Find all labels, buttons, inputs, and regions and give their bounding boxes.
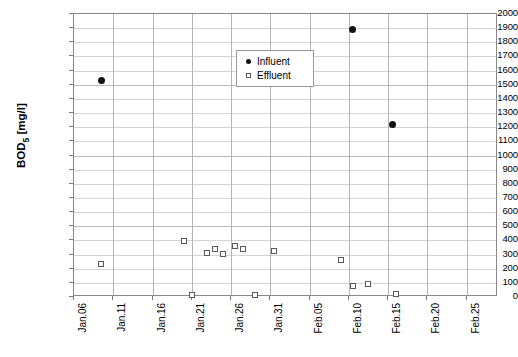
- legend-label-influent: Influent: [257, 56, 290, 67]
- x-axis-tick-mark: [466, 296, 467, 300]
- gridline-vertical: [427, 14, 428, 295]
- gridline-horizontal: [74, 156, 496, 157]
- gridline-vertical: [349, 14, 350, 295]
- gridline-horizontal: [74, 269, 496, 270]
- gridline-horizontal: [74, 141, 496, 142]
- gridline-vertical: [113, 14, 114, 295]
- x-axis-tick-mark: [230, 296, 231, 300]
- gridline-horizontal: [74, 240, 496, 241]
- gridline-horizontal: [74, 170, 496, 171]
- data-point-effluent: [240, 246, 246, 252]
- gridline-horizontal: [74, 255, 496, 256]
- open-square-icon: [242, 73, 254, 78]
- data-point-effluent: [212, 246, 218, 252]
- gridline-horizontal: [74, 184, 496, 185]
- data-point-effluent: [350, 283, 356, 289]
- x-axis-tick-label: Feb.25: [470, 303, 481, 334]
- x-axis-tick-label: Jan.16: [156, 303, 167, 332]
- gridline-horizontal: [74, 113, 496, 114]
- bod5-scatter-chart: BOD5 [mg/l] 2000190018001700160015001400…: [0, 0, 518, 357]
- data-point-effluent: [98, 261, 104, 267]
- gridline-horizontal: [74, 198, 496, 199]
- chart-legend: Influent Effluent: [236, 50, 314, 87]
- x-axis-tick-mark: [348, 296, 349, 300]
- x-axis-tick-label: Jan.11: [116, 303, 127, 332]
- gridline-horizontal: [74, 99, 496, 100]
- gridline-vertical: [388, 14, 389, 295]
- x-axis-tick-label: Jan.31: [273, 303, 284, 332]
- x-axis-tick-label: Jan.06: [77, 303, 88, 332]
- x-axis-tick-label: Jan.21: [195, 303, 206, 332]
- x-axis-tick-label: Feb.05: [313, 303, 324, 334]
- x-axis-tick-label: Feb.20: [430, 303, 441, 334]
- data-point-effluent: [220, 251, 226, 257]
- gridline-horizontal: [74, 127, 496, 128]
- y-axis-title: BOD5 [mg/l]: [15, 61, 30, 211]
- gridline-horizontal: [74, 42, 496, 43]
- legend-item-influent: Influent: [242, 54, 308, 68]
- x-axis-tick-mark: [309, 296, 310, 300]
- data-point-influent: [98, 77, 105, 84]
- x-axis-tick-mark: [73, 296, 74, 300]
- gridline-vertical: [231, 14, 232, 295]
- gridline-vertical: [192, 14, 193, 295]
- x-axis-tick-mark: [152, 296, 153, 300]
- gridline-vertical: [153, 14, 154, 295]
- data-point-effluent: [204, 250, 210, 256]
- y-axis-title-subscript: 5: [21, 138, 31, 143]
- y-axis-title-base: BOD: [15, 142, 27, 168]
- x-axis-tick-mark: [387, 296, 388, 300]
- legend-label-effluent: Effluent: [257, 70, 291, 81]
- gridline-horizontal: [74, 226, 496, 227]
- gridline-horizontal: [74, 212, 496, 213]
- x-axis-tick-label: Feb.10: [352, 303, 363, 334]
- data-point-effluent: [393, 291, 399, 297]
- gridline-horizontal: [74, 28, 496, 29]
- x-axis-tick-mark: [112, 296, 113, 300]
- data-point-effluent: [365, 281, 371, 287]
- data-point-effluent: [181, 238, 187, 244]
- data-point-influent: [389, 121, 396, 128]
- data-point-effluent: [252, 292, 258, 298]
- data-point-influent: [349, 26, 356, 33]
- y-axis-title-unit: [mg/l]: [15, 103, 27, 138]
- data-point-effluent: [232, 243, 238, 249]
- x-axis-tick-label: Feb.15: [391, 303, 402, 334]
- x-axis-tick-mark: [426, 296, 427, 300]
- gridline-vertical: [467, 14, 468, 295]
- legend-item-effluent: Effluent: [242, 68, 308, 82]
- filled-circle-icon: [242, 59, 254, 64]
- x-axis-tick-label: Jan.26: [234, 303, 245, 332]
- data-point-effluent: [338, 257, 344, 263]
- x-axis-tick-mark: [269, 296, 270, 300]
- data-point-effluent: [189, 292, 195, 298]
- gridline-horizontal: [74, 283, 496, 284]
- data-point-effluent: [271, 248, 277, 254]
